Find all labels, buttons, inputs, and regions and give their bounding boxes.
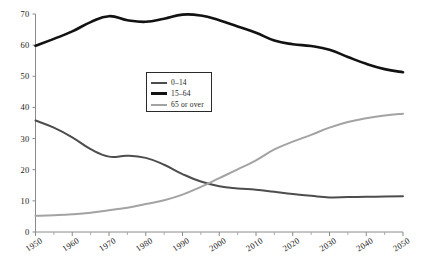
legend-swatch-0-14-icon: [151, 82, 167, 84]
chart-plot-area: 0102030405060701950196019701980199020002…: [0, 0, 422, 263]
svg-text:1960: 1960: [60, 235, 81, 253]
svg-text:60: 60: [20, 40, 29, 50]
series-line-2: [36, 114, 404, 216]
legend-item-15-64: 15–64: [151, 88, 207, 99]
svg-text:50: 50: [20, 71, 29, 81]
series-line-0: [36, 121, 404, 198]
legend-label-15-64: 15–64: [171, 88, 191, 99]
svg-text:30: 30: [20, 134, 29, 144]
svg-text:70: 70: [20, 9, 29, 19]
svg-text:1970: 1970: [97, 235, 118, 253]
axis-ticks: [33, 14, 404, 236]
legend-swatch-15-64-icon: [151, 92, 167, 94]
svg-text:2000: 2000: [207, 235, 228, 253]
svg-text:0: 0: [25, 227, 30, 237]
svg-text:2050: 2050: [391, 235, 412, 253]
legend-swatch-65-or-over-icon: [151, 104, 167, 106]
data-series: [36, 14, 404, 216]
legend-label-0-14: 0–14: [171, 77, 187, 88]
svg-text:1990: 1990: [171, 235, 192, 253]
series-line-1: [36, 14, 404, 72]
legend-item-65-or-over: 65 or over: [151, 99, 207, 110]
svg-text:40: 40: [20, 102, 29, 112]
svg-text:1950: 1950: [24, 235, 45, 253]
svg-text:2020: 2020: [281, 235, 302, 253]
svg-text:10: 10: [20, 196, 29, 206]
chart-legend: 0–14 15–64 65 or over: [146, 72, 212, 112]
legend-label-65-or-over: 65 or over: [171, 99, 204, 110]
svg-text:20: 20: [20, 165, 29, 175]
axis-tick-labels: 0102030405060701950196019701980199020002…: [20, 9, 411, 254]
svg-text:2030: 2030: [318, 235, 339, 253]
svg-text:2010: 2010: [244, 235, 265, 253]
population-age-structure-chart: 0102030405060701950196019701980199020002…: [0, 0, 422, 263]
svg-text:2040: 2040: [354, 235, 375, 253]
svg-text:1980: 1980: [134, 235, 155, 253]
legend-item-0-14: 0–14: [151, 77, 207, 88]
